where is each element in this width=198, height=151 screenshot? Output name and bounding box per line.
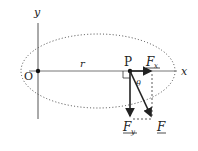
- f-label: F: [156, 120, 166, 134]
- angle-label: θ: [136, 79, 141, 88]
- x-axis-label: x: [181, 65, 188, 78]
- svg-text:F: F: [156, 120, 166, 134]
- svg-text:x: x: [154, 62, 158, 70]
- origin-dot: [36, 69, 40, 73]
- origin-label: O: [24, 70, 33, 83]
- fy-label: F y: [122, 120, 137, 136]
- y-axis-label: y: [33, 6, 41, 19]
- svg-text:y: y: [130, 128, 136, 136]
- f-arrow: [130, 71, 151, 116]
- radius-label: r: [80, 58, 86, 69]
- point-p-label: P: [124, 55, 132, 69]
- fx-label: F x: [145, 55, 160, 70]
- force-diagram: y x O r P θ F x F y F: [0, 0, 198, 151]
